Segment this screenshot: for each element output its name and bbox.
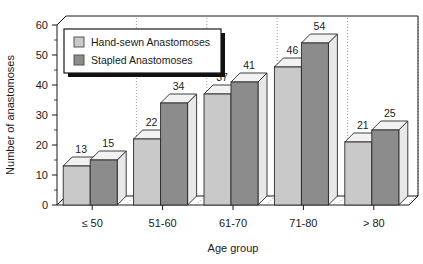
bar-chart-container: 13152234374146542125 0102030405060≤ 5051… xyxy=(0,0,423,264)
x-axis-title: Age group xyxy=(208,242,259,254)
legend-swatch-0 xyxy=(74,37,84,47)
y-tick-label-20: 20 xyxy=(36,139,48,151)
legend-label-0: Hand-sewn Anastomoses xyxy=(91,36,210,48)
bar-stapled-2 xyxy=(231,73,267,205)
legend-swatch-1 xyxy=(74,55,84,65)
value-label-stapled-3: 54 xyxy=(314,20,326,32)
value-label-stapled-1: 34 xyxy=(173,80,185,92)
bar-stapled-0 xyxy=(90,151,126,205)
y-tick-label-60: 60 xyxy=(36,19,48,31)
value-label-hand-sewn-1: 22 xyxy=(146,116,158,128)
y-tick-label-30: 30 xyxy=(36,109,48,121)
value-label-stapled-4: 25 xyxy=(384,107,396,119)
chart-canvas: 13152234374146542125 0102030405060≤ 5051… xyxy=(0,0,423,264)
value-label-hand-sewn-0: 13 xyxy=(75,143,87,155)
x-tick-label-2: 61-70 xyxy=(219,217,247,229)
y-tick-label-50: 50 xyxy=(36,49,48,61)
x-tick-label-1: 51-60 xyxy=(149,217,177,229)
chart-legend: Hand-sewn AnastomosesStapled Anastomoses xyxy=(64,29,225,77)
y-tick-label-10: 10 xyxy=(36,169,48,181)
y-tick-label-40: 40 xyxy=(36,79,48,91)
value-label-hand-sewn-4: 21 xyxy=(357,119,369,131)
value-label-hand-sewn-3: 46 xyxy=(287,44,299,56)
x-tick-label-0: ≤ 50 xyxy=(82,217,103,229)
y-tick-label-0: 0 xyxy=(42,199,48,211)
bar-stapled-3 xyxy=(301,34,337,205)
bar-stapled-4 xyxy=(372,121,408,205)
bar-stapled-1 xyxy=(161,94,197,205)
value-label-stapled-0: 15 xyxy=(102,137,114,149)
value-label-stapled-2: 41 xyxy=(243,59,255,71)
x-tick-label-4: > 80 xyxy=(363,217,385,229)
x-tick-label-3: 71-80 xyxy=(289,217,317,229)
legend-label-1: Stapled Anastomoses xyxy=(91,54,193,66)
y-axis-title: Number of anastomoses xyxy=(4,55,16,175)
